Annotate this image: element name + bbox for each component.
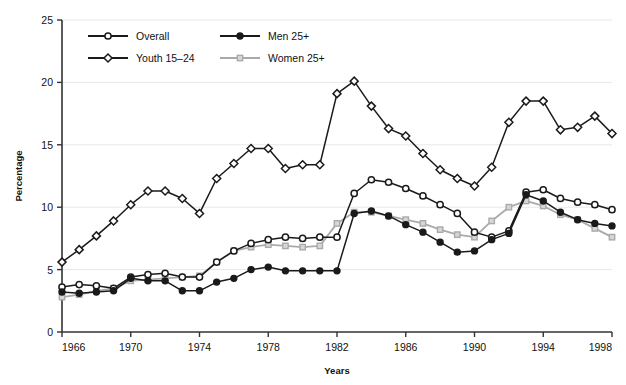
data-point-open-circle — [300, 235, 306, 241]
y-tick-label: 0 — [47, 326, 53, 338]
data-point-open-circle — [248, 240, 254, 246]
data-point-filled-circle — [231, 275, 237, 281]
data-point-filled-circle — [334, 268, 340, 274]
x-tick-label: 1974 — [188, 341, 212, 353]
unemployment-line-chart: 0510152025 19661970197419781982198619901… — [0, 0, 626, 385]
data-point-gray-square — [489, 218, 494, 223]
data-point-filled-circle — [179, 288, 185, 294]
data-point-open-circle — [179, 274, 185, 280]
x-tick-label: 1982 — [325, 341, 349, 353]
data-point-filled-circle — [214, 279, 220, 285]
data-point-filled-circle — [575, 217, 581, 223]
data-point-gray-square — [609, 234, 614, 239]
data-point-filled-circle — [237, 33, 243, 39]
data-point-filled-circle — [111, 288, 117, 294]
data-point-open-circle — [403, 185, 409, 191]
data-point-filled-circle — [386, 213, 392, 219]
data-point-filled-circle — [437, 239, 443, 245]
data-point-gray-square — [317, 243, 322, 248]
x-tick-label: 1998 — [589, 341, 613, 353]
data-point-open-circle — [162, 270, 168, 276]
y-tick-label: 20 — [41, 76, 53, 88]
data-point-filled-circle — [403, 222, 409, 228]
data-point-open-circle — [592, 202, 598, 208]
data-point-open-circle — [471, 229, 477, 235]
x-tick-label: 1970 — [119, 341, 143, 353]
x-axis-title: Years — [324, 365, 349, 376]
data-point-gray-square — [237, 55, 242, 60]
data-point-open-circle — [351, 190, 357, 196]
data-point-filled-circle — [300, 268, 306, 274]
y-tick-label: 5 — [47, 264, 53, 276]
data-point-filled-circle — [248, 267, 254, 273]
data-point-open-circle — [557, 195, 563, 201]
data-point-open-circle — [145, 271, 151, 277]
data-point-filled-circle — [317, 268, 323, 274]
data-point-filled-circle — [489, 237, 495, 243]
data-point-open-circle — [540, 187, 546, 193]
x-tick-label: 1990 — [463, 341, 487, 353]
data-point-gray-square — [300, 244, 305, 249]
data-point-filled-circle — [145, 278, 151, 284]
data-point-open-circle — [76, 281, 82, 287]
legend-label: Overall — [136, 30, 169, 42]
data-point-filled-circle — [351, 210, 357, 216]
data-point-open-circle — [265, 237, 271, 243]
data-point-filled-circle — [540, 198, 546, 204]
y-tick-label: 15 — [41, 139, 53, 151]
data-point-filled-circle — [93, 289, 99, 295]
data-point-filled-circle — [197, 288, 203, 294]
data-point-open-circle — [214, 259, 220, 265]
data-point-filled-circle — [454, 249, 460, 255]
legend-label: Women 25+ — [268, 52, 325, 64]
data-point-open-circle — [105, 33, 111, 39]
data-point-open-circle — [368, 177, 374, 183]
chart-container: 0510152025 19661970197419781982198619901… — [0, 0, 626, 385]
x-tick-label: 1994 — [532, 341, 556, 353]
data-point-gray-square — [334, 221, 339, 226]
data-point-filled-circle — [472, 248, 478, 254]
data-point-gray-square — [437, 227, 442, 232]
data-point-filled-circle — [162, 278, 168, 284]
data-point-filled-circle — [128, 275, 134, 281]
data-point-filled-circle — [557, 209, 563, 215]
data-point-open-circle — [93, 283, 99, 289]
data-point-open-circle — [609, 207, 615, 213]
data-point-gray-square — [455, 232, 460, 237]
data-point-filled-circle — [506, 230, 512, 236]
data-point-filled-circle — [265, 264, 271, 270]
x-tick-label: 1966 — [62, 341, 86, 353]
data-point-filled-circle — [282, 268, 288, 274]
data-point-open-circle — [317, 234, 323, 240]
legend-label: Men 25+ — [268, 30, 309, 42]
y-tick-label: 25 — [41, 14, 53, 26]
y-axis-title: Percentage — [13, 150, 24, 201]
data-point-open-circle — [282, 234, 288, 240]
data-point-open-circle — [454, 210, 460, 216]
x-tick-label: 1978 — [257, 341, 281, 353]
data-point-open-circle — [437, 202, 443, 208]
data-point-filled-circle — [368, 208, 374, 214]
data-point-gray-square — [283, 243, 288, 248]
data-point-open-circle — [334, 234, 340, 240]
data-point-open-circle — [196, 274, 202, 280]
x-tick-label: 1986 — [394, 341, 418, 353]
data-point-gray-square — [506, 205, 511, 210]
data-point-filled-circle — [609, 223, 615, 229]
data-point-open-circle — [231, 248, 237, 254]
data-point-open-circle — [385, 179, 391, 185]
data-point-filled-circle — [592, 220, 598, 226]
data-point-filled-circle — [59, 289, 65, 295]
legend-label: Youth 15–24 — [136, 52, 195, 64]
data-point-filled-circle — [76, 290, 82, 296]
data-point-filled-circle — [523, 192, 529, 198]
data-point-open-circle — [575, 199, 581, 205]
data-point-filled-circle — [420, 229, 426, 235]
data-point-gray-square — [420, 221, 425, 226]
y-tick-label: 10 — [41, 201, 53, 213]
data-point-open-circle — [420, 193, 426, 199]
